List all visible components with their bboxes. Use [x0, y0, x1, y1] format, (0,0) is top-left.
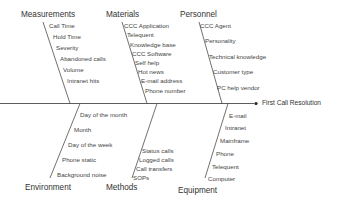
cause-label: Intranet: [225, 125, 246, 131]
category-measurements: Measurements: [21, 11, 75, 19]
cause-label: Logged calls: [139, 157, 174, 163]
cause-label: Phone static: [62, 157, 96, 163]
cause-label: Phone number: [145, 88, 186, 94]
cause-label: Call Time: [49, 23, 75, 29]
cause-label: E-mail: [229, 113, 247, 119]
cause-label: Computer: [208, 176, 235, 182]
cause-label: Customer type: [213, 69, 253, 75]
bone-personnel: [199, 22, 222, 104]
category-personnel: Personnel: [180, 11, 217, 19]
cause-label: Abandoned calls: [60, 56, 106, 62]
cause-label: Intranet hits: [67, 78, 99, 84]
category-equipment: Equipment: [178, 187, 217, 195]
cause-label: SOPs: [133, 175, 149, 181]
cause-label: Volume: [63, 67, 84, 73]
category-methods: Methods: [106, 184, 137, 192]
cause-label: Phone: [216, 151, 234, 157]
cause-label: Day of the week: [68, 142, 112, 148]
cause-label: E-mail address: [141, 78, 182, 84]
cause-label: Knowledge base: [130, 42, 176, 48]
cause-label: CCC Software: [132, 51, 172, 57]
cause-label: PC help vendor: [217, 85, 260, 91]
effect-label: First Call Resolution: [262, 100, 321, 107]
cause-label: Month: [74, 127, 91, 133]
cause-label: Status calls: [142, 148, 174, 154]
spine-arrow-head: [254, 102, 257, 105]
cause-label: Telequent: [127, 32, 154, 38]
cause-label: Day of the month: [80, 112, 127, 118]
cause-label: CCC Application: [124, 23, 169, 29]
cause-label: Hot news: [138, 69, 164, 75]
cause-label: Background noise: [57, 172, 107, 178]
category-environment: Environment: [25, 184, 71, 192]
cause-label: Self help: [135, 60, 159, 66]
cause-label: Call transfers: [136, 166, 172, 172]
cause-label: Technical knowledge: [209, 54, 266, 60]
cause-label: Mainframe: [220, 138, 249, 144]
cause-label: Hold Time: [53, 34, 81, 40]
cause-label: Telequent: [212, 164, 239, 170]
cause-label: Personality: [205, 38, 236, 44]
cause-label: Severity: [56, 45, 78, 51]
cause-label: CCC Agent: [200, 23, 231, 29]
category-materials: Materials: [106, 11, 139, 19]
